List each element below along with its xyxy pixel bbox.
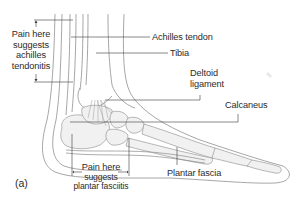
plantar-fascia-label: Plantar fascia [167,168,221,179]
achilles-pain-line-1: Pain here [7,29,55,40]
deltoid-ligament-label: Deltoid ligament [190,68,224,89]
achilles-pain-line-4: tendonitis [7,61,55,72]
plantar-pain-label: Pain here suggests plantar fasciitis [70,163,132,192]
plantar-pain-line-3: plantar fasciitis [70,182,132,192]
watermark-mark [266,72,272,78]
foot-anatomy-diagram: Pain here suggests achilles tendonitis A… [0,0,299,208]
deltoid-line-2: ligament [190,79,224,90]
achilles-tendon-label: Achilles tendon [152,32,213,43]
achilles-pain-line-2: suggests [7,40,55,51]
tibia-label: Tibia [170,48,189,59]
calcaneus-label: Calcaneus [225,100,268,111]
achilles-pain-line-3: achilles [7,50,55,61]
panel-label: (a) [15,177,28,189]
deltoid-line-1: Deltoid [190,68,224,79]
achilles-pain-label: Pain here suggests achilles tendonitis [7,29,55,71]
